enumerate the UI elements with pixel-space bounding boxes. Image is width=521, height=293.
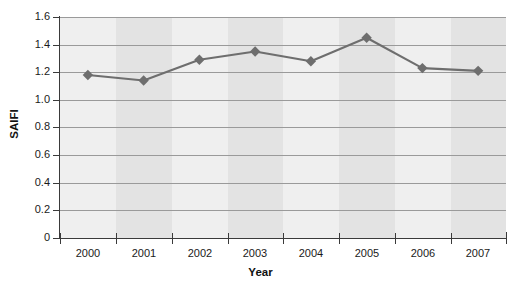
chart-figure: 1.6 1.4 1.2 1.0 0.8 0.6 0.4 0.2 0 2000 2… xyxy=(0,0,521,293)
gridline-0.2 xyxy=(60,210,506,211)
y-tick-0.4 xyxy=(53,183,60,184)
y-tick-label-0: 0 xyxy=(44,232,50,243)
y-tick-label-0.2: 0.2 xyxy=(35,204,50,215)
gridline-1.0 xyxy=(60,100,506,101)
gridline-0.8 xyxy=(60,127,506,128)
x-tick-label-2004: 2004 xyxy=(285,247,337,259)
y-tick-1.6 xyxy=(53,17,60,18)
gridline-1.6 xyxy=(60,17,506,18)
y-tick-label-1.4: 1.4 xyxy=(35,39,50,50)
y-tick-1.2 xyxy=(53,72,60,73)
y-axis-title: SAIFI xyxy=(8,94,20,154)
x-axis-title: Year xyxy=(0,266,521,278)
x-tick-label-2003: 2003 xyxy=(229,247,281,259)
y-tick-label-0.6: 0.6 xyxy=(35,149,50,160)
gridline-0.6 xyxy=(60,155,506,156)
gridline-1.4 xyxy=(60,45,506,46)
y-tick-0 xyxy=(53,238,60,239)
y-tick-label-1.0: 1.0 xyxy=(35,94,50,105)
y-tick-label-1.6: 1.6 xyxy=(35,11,50,22)
x-tick-0 xyxy=(60,233,61,244)
x-tick-1 xyxy=(116,233,117,244)
x-tick-5 xyxy=(339,233,340,244)
x-tick-4 xyxy=(283,233,284,244)
x-tick-6 xyxy=(395,233,396,244)
gridline-1.2 xyxy=(60,72,506,73)
x-axis-end-cap xyxy=(506,232,507,244)
y-tick-1.4 xyxy=(53,45,60,46)
x-tick-label-2002: 2002 xyxy=(174,247,226,259)
y-tick-label-0.8: 0.8 xyxy=(35,121,50,132)
y-tick-label-0.4: 0.4 xyxy=(35,177,50,188)
x-tick-3 xyxy=(228,233,229,244)
y-tick-0.8 xyxy=(53,127,60,128)
x-tick-label-2000: 2000 xyxy=(62,247,114,259)
gridline-0.4 xyxy=(60,183,506,184)
y-tick-1.0 xyxy=(53,100,60,101)
y-tick-0.6 xyxy=(53,155,60,156)
y-tick-0.2 xyxy=(53,210,60,211)
x-tick-label-2001: 2001 xyxy=(118,247,170,259)
plot-area xyxy=(60,17,506,238)
x-tick-label-2005: 2005 xyxy=(341,247,393,259)
y-tick-label-1.2: 1.2 xyxy=(35,66,50,77)
x-tick-label-2006: 2006 xyxy=(397,247,449,259)
x-tick-7 xyxy=(451,233,452,244)
x-tick-label-2007: 2007 xyxy=(452,247,504,259)
x-tick-2 xyxy=(172,233,173,244)
